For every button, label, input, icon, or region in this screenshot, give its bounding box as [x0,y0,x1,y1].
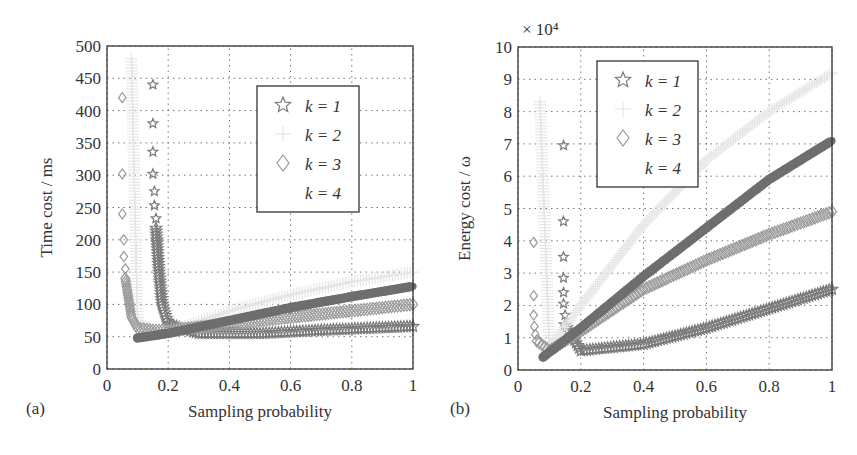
x-tick-label: 0.4 [219,376,241,395]
x-tick-label: 0.6 [696,377,717,396]
y-tick-label: 6 [504,167,513,186]
x-tick-label: 1 [409,376,418,395]
y-tick-label: 400 [76,102,102,121]
y-tick-label: 450 [76,69,102,88]
x-axis-label: Sampling probability [188,402,333,421]
chart-panel-a: 00.20.40.60.8105010015020025030035040045… [26,37,419,421]
x-tick-label: 0 [514,377,523,396]
panel-label: (a) [26,399,45,418]
y-tick-label: 8 [504,103,513,122]
legend-entry: k = 3 [305,155,341,174]
legend-entry: k = 3 [645,130,681,149]
y-tick-label: 250 [76,199,102,218]
y-exponent-label: × 10⁴ [522,20,559,39]
legend-entry: k = 4 [305,184,342,203]
x-tick-label: 1 [828,377,837,396]
y-axis-label: Time cost / ms [37,158,56,258]
y-tick-label: 500 [76,37,102,56]
y-tick-label: 50 [84,328,101,347]
y-tick-label: 350 [76,134,102,153]
figure: 00.20.40.60.8105010015020025030035040045… [0,0,857,455]
y-tick-label: 7 [504,135,513,154]
x-tick-label: 0.2 [158,376,179,395]
legend-entry: k = 2 [305,126,342,145]
x-tick-label: 0.8 [759,377,780,396]
x-tick-label: 0.6 [280,376,301,395]
y-tick-label: 3 [504,264,513,283]
y-tick-label: 200 [76,231,102,250]
y-tick-label: 150 [76,263,102,282]
panel-label: (b) [450,399,470,418]
legend-entry: k = 4 [645,159,682,178]
y-tick-label: 100 [76,295,102,314]
legend-entry: k = 1 [305,97,341,116]
legend: k = 1k = 2k = 3k = 4 [257,86,359,212]
y-tick-label: 0 [504,361,513,380]
y-tick-label: 300 [76,166,102,185]
y-tick-label: 10 [495,38,512,57]
y-tick-label: 0 [93,360,102,379]
legend-entry: k = 2 [645,101,682,120]
y-tick-label: 5 [504,200,513,219]
y-tick-label: 1 [504,329,513,348]
legend-entry: k = 1 [645,72,681,91]
y-tick-label: 9 [504,70,513,89]
y-tick-label: 4 [504,232,513,251]
x-tick-label: 0 [103,376,112,395]
y-tick-label: 2 [504,296,513,315]
x-axis-label: Sampling probability [603,403,748,422]
x-tick-label: 0.4 [633,377,655,396]
x-tick-label: 0.8 [341,376,362,395]
y-axis-label: Energy cost / ω [455,156,474,261]
x-tick-label: 0.2 [570,377,591,396]
legend: k = 1k = 2k = 3k = 4 [597,61,698,187]
chart-panel-b: 00.20.40.60.81012345678910Sampling proba… [450,20,838,422]
